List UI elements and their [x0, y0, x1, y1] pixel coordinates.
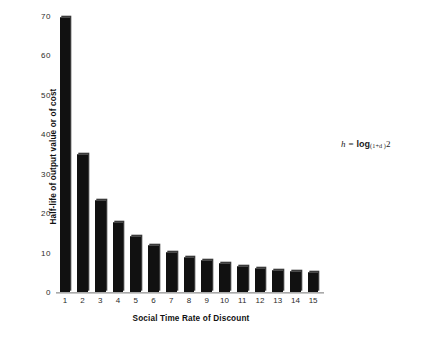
bar-6 [148, 245, 159, 292]
bar-15 [308, 272, 319, 292]
formula-function: log [357, 139, 371, 149]
bar-9 [201, 260, 212, 292]
x-axis-tick-label: 5 [134, 296, 138, 305]
plot-area: 010203040506070123456789101112131415 [56, 16, 322, 292]
y-axis-tick-label: 10 [41, 248, 51, 257]
bar-2 [77, 154, 88, 292]
y-axis-tick-label: 40 [41, 130, 51, 139]
y-axis-tick-label: 0 [46, 288, 51, 297]
bar-14 [290, 271, 301, 292]
bar-12 [255, 268, 266, 292]
x-axis-tick-label: 13 [273, 296, 282, 305]
x-axis-tick-label: 8 [187, 296, 191, 305]
x-axis-tick-label: 1 [63, 296, 67, 305]
x-axis-tick-label: 3 [98, 296, 102, 305]
x-axis-tick-label: 6 [151, 296, 155, 305]
formula-base: (1+d ) [370, 142, 386, 149]
x-axis-tick-label: 4 [116, 296, 120, 305]
bar-7 [166, 252, 177, 292]
y-axis-tick-label: 60 [41, 51, 51, 60]
bar-11 [237, 266, 248, 292]
x-axis-baseline [56, 292, 324, 294]
x-axis-tick-label: 10 [220, 296, 229, 305]
bar-3 [95, 200, 106, 292]
x-axis-tick-label: 11 [238, 296, 246, 305]
bar-8 [184, 257, 195, 292]
bar-13 [272, 270, 283, 292]
x-axis-tick-label: 2 [80, 296, 84, 305]
formula-argument: 2 [386, 139, 391, 149]
y-axis-tick-label: 20 [41, 209, 51, 218]
formula-annotation: h=log(1+d )2 [341, 139, 391, 149]
x-axis-tick-label: 12 [255, 296, 264, 305]
bar-1 [60, 17, 71, 292]
x-axis-tick-label: 7 [169, 296, 173, 305]
bar-5 [130, 236, 141, 292]
formula-variable: h [341, 139, 346, 149]
x-axis-tick-label: 9 [204, 296, 208, 305]
y-axis-tick-label: 70 [41, 12, 51, 21]
chart-figure: Half-life of output value or of cost 010… [0, 0, 426, 342]
formula-equals: = [349, 139, 354, 149]
y-axis-tick-label: 50 [41, 90, 51, 99]
bar-10 [219, 263, 230, 292]
x-axis-tick-label: 15 [309, 296, 318, 305]
bar-4 [113, 222, 124, 292]
y-axis-tick-label: 30 [41, 169, 51, 178]
x-axis-title: Social Time Rate of Discount [52, 314, 330, 323]
x-axis-tick-label: 14 [291, 296, 300, 305]
